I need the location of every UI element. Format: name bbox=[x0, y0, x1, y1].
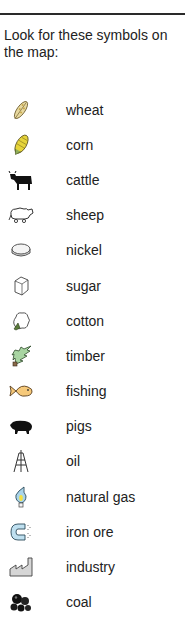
legend-item-coal: coal bbox=[0, 585, 185, 620]
legend-label: sugar bbox=[66, 278, 101, 294]
legend-item-pigs: pigs bbox=[0, 409, 185, 444]
wheat-icon bbox=[6, 97, 36, 123]
legend-label: corn bbox=[66, 137, 93, 153]
nickel-icon bbox=[6, 237, 36, 263]
cattle-icon bbox=[6, 167, 36, 193]
legend-label: natural gas bbox=[66, 489, 135, 505]
sheep-icon bbox=[6, 202, 36, 228]
legend-label: coal bbox=[66, 594, 92, 610]
legend-item-fishing: fishing bbox=[0, 374, 185, 409]
natural-gas-icon bbox=[6, 484, 36, 510]
legend-item-iron-ore: iron ore bbox=[0, 514, 185, 549]
cotton-icon bbox=[6, 308, 36, 334]
coal-icon bbox=[6, 589, 36, 615]
top-divider bbox=[0, 13, 185, 15]
legend-item-sugar: sugar bbox=[0, 268, 185, 303]
iron-ore-icon bbox=[6, 519, 36, 545]
legend-label: oil bbox=[66, 453, 80, 469]
oil-icon bbox=[6, 448, 36, 474]
legend-label: cattle bbox=[66, 172, 99, 188]
legend-label: wheat bbox=[66, 102, 103, 118]
legend-item-industry: industry bbox=[0, 549, 185, 584]
legend-item-timber: timber bbox=[0, 338, 185, 373]
legend-label: fishing bbox=[66, 383, 106, 399]
industry-icon bbox=[6, 554, 36, 580]
legend-intro: Look for these symbols on the map: bbox=[4, 27, 184, 61]
pigs-icon bbox=[6, 413, 36, 439]
legend-item-natural-gas: natural gas bbox=[0, 479, 185, 514]
map-symbol-legend: wheat corn cattle sheep nickel sugar c bbox=[0, 92, 185, 620]
legend-label: sheep bbox=[66, 207, 104, 223]
legend-item-sheep: sheep bbox=[0, 198, 185, 233]
legend-label: timber bbox=[66, 348, 105, 364]
legend-item-cotton: cotton bbox=[0, 303, 185, 338]
timber-icon bbox=[6, 343, 36, 369]
legend-label: cotton bbox=[66, 313, 104, 329]
legend-label: industry bbox=[66, 559, 115, 575]
legend-label: nickel bbox=[66, 242, 102, 258]
legend-item-oil: oil bbox=[0, 444, 185, 479]
legend-item-wheat: wheat bbox=[0, 92, 185, 127]
legend-item-nickel: nickel bbox=[0, 233, 185, 268]
legend-item-cattle: cattle bbox=[0, 162, 185, 197]
fishing-icon bbox=[6, 378, 36, 404]
legend-label: iron ore bbox=[66, 524, 113, 540]
legend-item-corn: corn bbox=[0, 127, 185, 162]
corn-icon bbox=[6, 132, 36, 158]
sugar-icon bbox=[6, 273, 36, 299]
legend-label: pigs bbox=[66, 418, 92, 434]
